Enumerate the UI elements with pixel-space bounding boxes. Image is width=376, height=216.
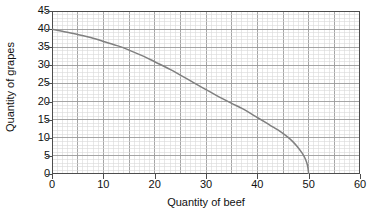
chart-container: Quantity of grapes 051015202530354045010… bbox=[0, 0, 376, 216]
x-tick-label: 40 bbox=[242, 179, 272, 190]
y-axis-title: Quantity of grapes bbox=[2, 0, 18, 174]
x-tick-label: 0 bbox=[37, 179, 67, 190]
y-tick-mark bbox=[46, 11, 52, 12]
x-tick-label: 50 bbox=[294, 179, 324, 190]
y-tick-mark bbox=[46, 65, 52, 66]
x-tick-mark bbox=[103, 174, 104, 179]
y-tick-mark bbox=[46, 120, 52, 121]
x-axis-title: Quantity of beef bbox=[52, 196, 360, 208]
x-tick-mark bbox=[206, 174, 207, 179]
y-tick-mark bbox=[46, 29, 52, 30]
x-tick-mark bbox=[257, 174, 258, 179]
x-tick-mark bbox=[360, 174, 361, 179]
x-tick-label: 30 bbox=[191, 179, 221, 190]
data-curve bbox=[52, 11, 360, 174]
y-tick-mark bbox=[46, 156, 52, 157]
x-tick-mark bbox=[309, 174, 310, 179]
x-tick-mark bbox=[155, 174, 156, 179]
x-tick-mark bbox=[52, 174, 53, 179]
y-tick-mark bbox=[46, 47, 52, 48]
x-tick-label: 60 bbox=[345, 179, 375, 190]
x-tick-label: 20 bbox=[140, 179, 170, 190]
y-tick-mark bbox=[46, 102, 52, 103]
x-tick-label: 10 bbox=[88, 179, 118, 190]
plot-area bbox=[52, 11, 360, 174]
y-tick-mark bbox=[46, 138, 52, 139]
y-tick-mark bbox=[46, 83, 52, 84]
